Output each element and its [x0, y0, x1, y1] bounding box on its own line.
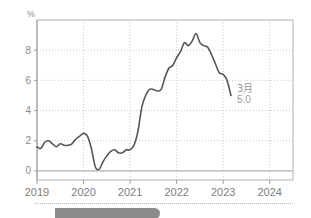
y-axis-unit-label: % — [27, 9, 35, 19]
series-line-inflation-rate — [37, 34, 231, 170]
x-tick-label-2024: 2024 — [257, 186, 281, 198]
last-point-callout: 3月 5.0 — [237, 83, 253, 105]
x-tick-label-2021: 2021 — [118, 186, 142, 198]
callout-month-label: 3月 — [237, 83, 253, 94]
x-tick-label-2020: 2020 — [71, 186, 95, 198]
plot-frame — [37, 20, 293, 180]
plot-border — [37, 20, 293, 180]
y-tick-label-6: 6 — [25, 75, 31, 86]
y-tick-label-2: 2 — [25, 135, 31, 146]
x-tick-group: 201920202021202220232024 — [25, 180, 282, 198]
y-tick-label-4: 4 — [25, 105, 31, 116]
inflation-line-chart: 02468 % 201920202021202220232024 3月 5.0 — [0, 0, 311, 218]
chart-canvas: 02468 % 201920202021202220232024 3月 5.0 — [0, 0, 311, 218]
y-tick-label-0: 0 — [25, 165, 31, 176]
y-tick-group: 02468 — [25, 45, 37, 177]
footer-gray-pill — [55, 208, 160, 218]
y-gridlines — [37, 50, 293, 141]
x-tick-label-2022: 2022 — [164, 186, 188, 198]
x-tick-label-2023: 2023 — [211, 186, 235, 198]
y-tick-label-8: 8 — [25, 45, 31, 56]
x-tick-label-2019: 2019 — [25, 186, 49, 198]
callout-value-label: 5.0 — [237, 94, 251, 105]
footer-dotted-divider — [35, 203, 293, 205]
